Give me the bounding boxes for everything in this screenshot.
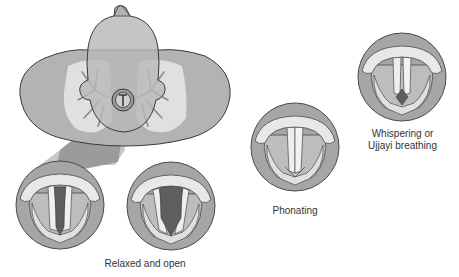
glottis-relaxed-wide — [127, 162, 215, 250]
label-whispering: Whispering or Ujjayi breathing — [355, 128, 450, 152]
torso-overview — [20, 6, 230, 176]
glottis-relaxed-narrow — [16, 161, 104, 249]
vocal-fold-diagram: Relaxed and open Phonating Whispering or… — [0, 0, 459, 277]
label-relaxed-and-open: Relaxed and open — [70, 258, 220, 270]
glottis-whispering — [358, 33, 446, 121]
label-whispering-line2: Ujjayi breathing — [355, 140, 450, 152]
label-phonating: Phonating — [255, 205, 335, 217]
glottis-phonating — [251, 103, 339, 191]
label-whispering-line1: Whispering or — [355, 128, 450, 140]
larynx-marker-icon — [112, 89, 134, 111]
